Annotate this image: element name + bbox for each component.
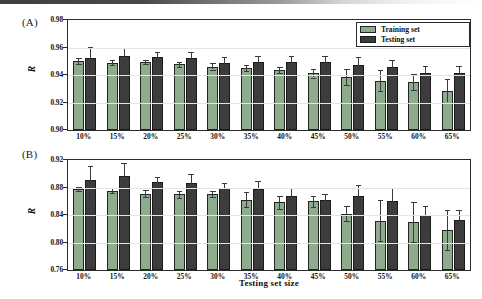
y-tick-mark (63, 187, 67, 188)
error-bar (380, 70, 381, 91)
error-bar (124, 48, 125, 65)
y-tick-mark (63, 102, 67, 103)
error-bar-cap (255, 69, 261, 70)
error-bar-cap (289, 204, 295, 205)
y-tick-mark (63, 47, 67, 48)
y-tick-label: 0.90 (31, 125, 63, 134)
legend-label-testing: Testing set (381, 35, 415, 44)
error-bar (246, 192, 247, 207)
legend: Training set Testing set (356, 22, 470, 47)
error-bar (313, 69, 314, 77)
error-bar (124, 163, 125, 188)
bar-train (140, 194, 151, 270)
y-tick-mark (63, 214, 67, 215)
bar-test (119, 56, 130, 130)
gridline (68, 215, 470, 216)
error-bar-cap (143, 64, 149, 65)
error-bar-cap (255, 196, 261, 197)
bar-test (253, 62, 264, 130)
error-bar-cap (378, 91, 384, 92)
error-bar-cap (244, 71, 250, 72)
error-bar (459, 210, 460, 231)
bar-train (174, 194, 185, 270)
error-bar-cap (188, 64, 194, 65)
error-bar-cap (356, 185, 362, 186)
gridline (68, 243, 470, 244)
error-bar-cap (110, 65, 116, 66)
error-bar-cap (76, 191, 82, 192)
error-bar-cap (177, 62, 183, 63)
error-bar-cap (378, 70, 384, 71)
error-bar-cap (423, 206, 429, 207)
error-bar-cap (210, 191, 216, 192)
error-bar-cap (311, 196, 317, 197)
error-bar-cap (244, 192, 250, 193)
legend-label-training: Training set (381, 25, 420, 34)
bar-test (420, 73, 431, 131)
error-bar (291, 56, 292, 69)
error-bar-cap (322, 68, 328, 69)
error-bar-cap (222, 192, 228, 193)
bar-train (73, 189, 84, 271)
x-axis-title: Testing set size (67, 278, 471, 288)
y-tick-mark (63, 129, 67, 130)
bar-test (454, 73, 465, 131)
error-bar-cap (155, 52, 161, 53)
y-tick-label: 0.76 (31, 265, 63, 274)
error-bar (447, 79, 448, 102)
error-bar-cap (155, 177, 161, 178)
error-bar-cap (210, 70, 216, 71)
error-bar-cap (322, 194, 328, 195)
error-bar-cap (255, 181, 261, 182)
error-bar (191, 52, 192, 64)
bar-test (387, 67, 398, 130)
bar-test (186, 58, 197, 130)
bar-test (320, 200, 331, 270)
error-bar-cap (210, 197, 216, 198)
bar-test (286, 62, 297, 130)
y-tick-label: 0.92 (31, 98, 63, 107)
error-bar (325, 194, 326, 206)
y-tick-mark (63, 269, 67, 270)
error-bar-cap (88, 194, 94, 195)
error-bar-cap (344, 206, 350, 207)
error-bar (346, 206, 347, 221)
y-tick-label: 0.92 (31, 155, 63, 164)
error-bar (258, 181, 259, 196)
error-bar-cap (255, 56, 261, 57)
error-bar-cap (322, 56, 328, 57)
error-bar-cap (311, 69, 317, 70)
bar-train (207, 194, 218, 270)
error-bar-cap (289, 56, 295, 57)
error-bar-cap (423, 66, 429, 67)
bar-train (107, 63, 118, 130)
bar-train (107, 191, 118, 270)
error-bar-cap (423, 224, 429, 225)
bar-train (241, 200, 252, 270)
error-bar-cap (456, 66, 462, 67)
bar-train (73, 61, 84, 130)
error-bar-cap (155, 62, 161, 63)
x-tick-label: 65% (432, 132, 472, 141)
error-bar-cap (356, 207, 362, 208)
error-bar-cap (143, 60, 149, 61)
error-bar-cap (344, 69, 350, 70)
bar-test (320, 62, 331, 130)
error-bar-cap (76, 58, 82, 59)
y-tick-label: 0.98 (31, 15, 63, 24)
legend-swatch-testing-icon (360, 36, 376, 43)
error-bar-cap (277, 196, 283, 197)
error-bar (279, 196, 280, 209)
bar-train (274, 202, 285, 270)
error-bar (224, 57, 225, 69)
error-bar (380, 200, 381, 241)
error-bar (90, 47, 91, 69)
y-tick-label: 0.96 (31, 43, 63, 52)
error-bar-cap (177, 191, 183, 192)
error-bar-cap (244, 65, 250, 66)
error-bar-cap (177, 198, 183, 199)
error-bar-cap (411, 90, 417, 91)
error-bar-cap (289, 69, 295, 70)
error-bar (358, 57, 359, 73)
error-bar-cap (177, 67, 183, 68)
